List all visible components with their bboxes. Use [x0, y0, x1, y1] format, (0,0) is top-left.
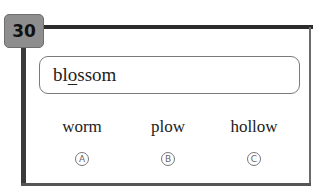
- option-b-word[interactable]: plow: [123, 117, 213, 137]
- target-word-prefix: bl: [53, 64, 68, 85]
- frame-left-border: [21, 45, 26, 186]
- frame-bottom-border: [21, 183, 311, 186]
- option-c-word[interactable]: hollow: [209, 117, 299, 137]
- question-number-badge: 30: [4, 14, 44, 48]
- option-b-circle-label[interactable]: B: [161, 152, 175, 166]
- option-a-word[interactable]: worm: [37, 117, 127, 137]
- question-number: 30: [12, 21, 36, 41]
- option-a-circle-label[interactable]: A: [75, 152, 89, 166]
- target-word-underlined-letter: o: [68, 64, 78, 85]
- target-word: blossom: [53, 64, 116, 86]
- target-word-suffix: ssom: [77, 64, 116, 85]
- frame-top-border: [40, 25, 313, 29]
- target-word-box: blossom: [39, 56, 300, 94]
- frame-right-border: [309, 27, 311, 186]
- option-c-circle-label[interactable]: C: [247, 152, 261, 166]
